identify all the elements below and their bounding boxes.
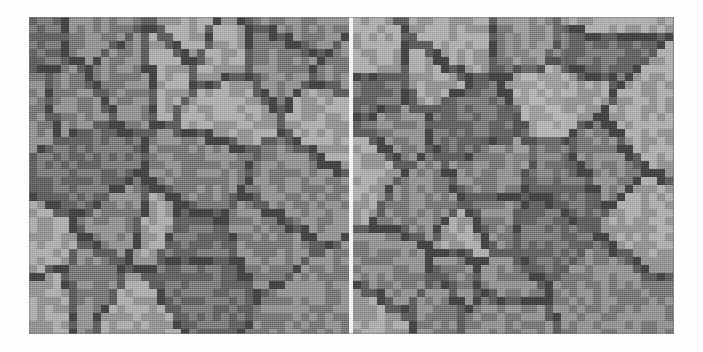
right-grain-map	[353, 17, 674, 334]
right-panel	[353, 17, 674, 334]
left-panel	[29, 17, 349, 334]
two-panel-image	[29, 17, 674, 334]
left-grain-map	[29, 17, 349, 334]
figure-root	[0, 0, 703, 352]
